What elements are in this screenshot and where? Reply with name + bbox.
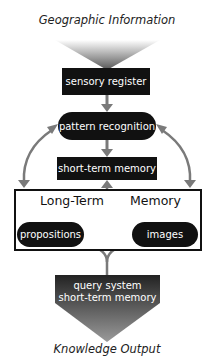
sensory-register-node: sensory register: [62, 68, 150, 95]
title-knowledge-output: Knowledge Output: [0, 342, 214, 356]
long-term-label: Long-Term: [40, 193, 104, 208]
query-stm-label: short-term memory: [55, 292, 160, 304]
propositions-node: propositions: [17, 222, 84, 247]
pattern-recognition-node: pattern recognition: [58, 112, 156, 140]
query-system-node: query system short-term memory: [55, 280, 160, 304]
memory-label: Memory: [130, 193, 181, 208]
short-term-memory-node: short-term memory: [57, 157, 157, 180]
query-system-label: query system: [55, 280, 160, 292]
images-node: images: [132, 222, 198, 247]
input-funnel-icon: [55, 40, 160, 70]
